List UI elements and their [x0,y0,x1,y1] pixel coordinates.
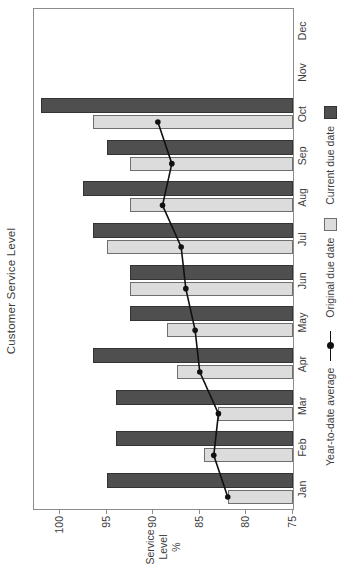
value-axis-tick-label: 75 [286,516,298,554]
legend-item-ytd-average: Year-to-date average [324,331,336,466]
value-axis-tick-label: 100 [53,516,65,554]
original-due-date-swatch-icon [324,218,337,231]
month-label-jan: Jan [296,468,308,510]
ytd-average-point [211,453,217,459]
ytd-average-point [169,161,175,167]
ytd-average-point [178,244,184,250]
value-axis-tick-label: 95 [100,516,112,554]
ytd-average-point [216,411,222,417]
month-label-mar: Mar [296,385,308,427]
month-label-jun: Jun [296,260,308,302]
customer-service-level-chart: Customer Service Level ServiceLevel% 100… [0,0,346,582]
month-label-jul: Jul [296,218,308,260]
value-axis-tick-label: 85 [193,516,205,554]
legend-original-label: Original due date [324,238,336,318]
ytd-average-point [225,494,231,500]
ytd-average-point [192,328,198,334]
legend-item-original-due-date: Original due date [324,218,337,318]
month-label-aug: Aug [296,177,308,219]
value-axis-tick-label: 80 [239,516,251,554]
month-label-sep: Sep [296,135,308,177]
legend: Year-to-date average Original due date C… [321,106,339,466]
month-label-may: May [296,302,308,344]
ytd-average-point [183,286,189,292]
value-axis-tick-label: 90 [146,516,158,554]
month-label-nov: Nov [296,52,308,94]
ytd-average-point [155,119,161,125]
value-axis-title-line: % [170,518,183,576]
plot-area [33,8,294,510]
month-label-feb: Feb [296,427,308,469]
month-label-oct: Oct [296,93,308,135]
current-due-date-swatch-icon [324,106,337,119]
legend-current-label: Current due date [324,126,336,205]
month-label-apr: Apr [296,343,308,385]
ytd-average-point [197,369,203,375]
ytd-average-line [34,9,293,509]
legend-item-current-due-date: Current due date [324,106,337,205]
ytd-average-point [160,203,166,209]
value-axis-title-line: Level [157,518,170,576]
line-dot-marker-icon [325,331,335,361]
chart-title: Customer Service Level [5,0,17,582]
legend-ytd-label: Year-to-date average [324,368,336,466]
month-label-dec: Dec [296,10,308,52]
